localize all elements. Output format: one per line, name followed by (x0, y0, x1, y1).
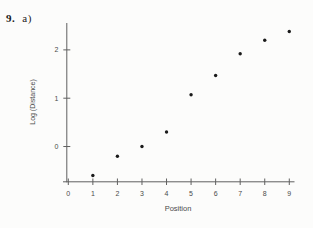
x-tick-label: 1 (91, 190, 95, 197)
data-point (165, 130, 168, 133)
axes (63, 23, 295, 182)
x-tick-label: 2 (115, 190, 119, 197)
x-tick-label: 0 (66, 190, 70, 197)
x-tick-label: 6 (214, 190, 218, 197)
x-tick-label: 5 (189, 190, 193, 197)
data-point (189, 93, 192, 96)
y-tick-label: 2 (55, 46, 59, 53)
y-tick-label: 0 (55, 143, 59, 150)
tick-labels: 0123456789012 (55, 46, 292, 196)
x-tick-label: 7 (238, 190, 242, 197)
data-point (238, 52, 241, 55)
x-tick-label: 4 (165, 190, 169, 197)
data-point (116, 154, 119, 157)
data-point (288, 30, 291, 33)
y-tick-label: 1 (55, 95, 59, 102)
data-point (91, 174, 94, 177)
data-point (263, 39, 266, 42)
y-axis-label: Log (Distance) (29, 79, 37, 125)
x-tick-label: 3 (140, 190, 144, 197)
x-tick-label: 9 (287, 190, 291, 197)
x-axis-label: Position (165, 204, 192, 213)
data-point (214, 74, 217, 77)
scanned-textbook-page: 9.a) 0123456789012 Position Log (Distanc… (0, 0, 313, 228)
scatter-plot: 0123456789012 Position Log (Distance) (0, 0, 313, 228)
x-tick-label: 8 (263, 190, 267, 197)
data-point (140, 145, 143, 148)
data-points (91, 30, 291, 177)
tick-marks (63, 50, 289, 185)
